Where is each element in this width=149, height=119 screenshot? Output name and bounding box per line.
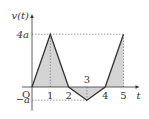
- x-tick-label: 3: [84, 74, 90, 85]
- x-tick-label: 1: [47, 90, 53, 101]
- y-tick-label-neg-a: −a: [16, 94, 30, 105]
- x-tick-label: 2: [65, 90, 71, 101]
- x-tick-label: 4: [102, 90, 108, 101]
- y-axis-label: v(t): [12, 10, 30, 21]
- v-axis-arrow-icon: [30, 14, 34, 18]
- x-axis-label: t: [136, 90, 141, 101]
- velocity-time-chart: v(t)tO4a−a12345: [0, 0, 149, 119]
- y-tick-label-4a: 4a: [16, 29, 29, 40]
- x-tick-label: 5: [120, 90, 126, 101]
- t-axis-arrow-icon: [135, 85, 139, 89]
- shaded-area: [32, 34, 124, 100]
